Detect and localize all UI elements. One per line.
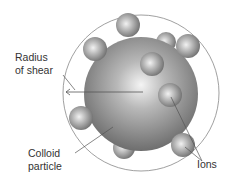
colloid-diagram: Radius of shear Colloid particle Ions xyxy=(0,0,247,186)
ion-sphere xyxy=(83,37,107,61)
radius-of-shear-label: Radius of shear xyxy=(15,51,53,77)
ion-sphere xyxy=(69,106,93,130)
ion-sphere xyxy=(140,52,164,76)
colloid-label-line1: Colloid xyxy=(28,147,62,160)
colloid-leader-line xyxy=(75,127,113,153)
ions-label: Ions xyxy=(197,158,217,171)
radius-leader-line xyxy=(63,75,75,90)
colloid-label-line2: particle xyxy=(28,160,62,173)
radius-label-line2: of shear xyxy=(15,64,53,77)
colloid-particle-label: Colloid particle xyxy=(28,147,62,173)
ion-sphere xyxy=(158,83,182,107)
ion-sphere xyxy=(176,34,200,58)
radius-label-line1: Radius xyxy=(15,51,53,64)
ion-sphere xyxy=(171,133,195,157)
ion-sphere xyxy=(116,13,140,37)
